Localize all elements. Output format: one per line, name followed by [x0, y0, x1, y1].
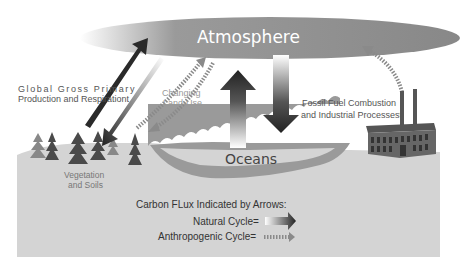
land-use-label-line2: Land-Use	[163, 98, 202, 109]
vegetation-label-line2: and Soils	[68, 180, 103, 191]
legend-anthropogenic-label: Anthropogenic Cycle=	[158, 231, 256, 242]
oceans-label: Oceans	[225, 151, 277, 167]
fossil-label-line2: and Industrial Processest	[301, 110, 402, 121]
ocean-exchange-arrows	[220, 55, 299, 148]
legend-title: Carbon FLux Indicated by Arrows:	[136, 199, 287, 210]
atmosphere-label: Atmosphere	[197, 27, 300, 47]
fossil-label-line1: Fossil Fuel Combustion	[302, 98, 396, 109]
gpp-label-line2: Production and Respirationt	[18, 94, 129, 105]
legend-natural-label: Natural Cycle=	[193, 216, 259, 227]
